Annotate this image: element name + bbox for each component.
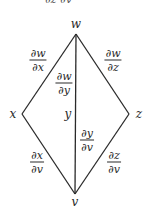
edge-label-dz-dv: ∂z ∂v [107, 150, 121, 175]
edge-label-dx-dv: ∂x ∂v [30, 150, 44, 175]
edge-label-dy-dv: ∂y ∂v [80, 128, 94, 153]
edge-w-z [76, 34, 129, 114]
chain-rule-diagram: ∂z ∂v w x y z v ∂w ∂x ∂w ∂y ∂w ∂z ∂x ∂v … [0, 0, 152, 208]
node-y: y [65, 108, 72, 120]
diagram-edges [0, 0, 152, 208]
node-z: z [136, 108, 142, 120]
edge-label-dw-dy: ∂w ∂y [55, 71, 72, 96]
edge-w-y-v [75, 34, 76, 194]
edge-label-dw-dz: ∂w ∂z [104, 48, 121, 73]
edge-label-dw-dx: ∂w ∂x [29, 48, 46, 73]
node-w: w [71, 18, 81, 30]
node-x: x [10, 108, 17, 120]
node-v: v [72, 196, 79, 208]
